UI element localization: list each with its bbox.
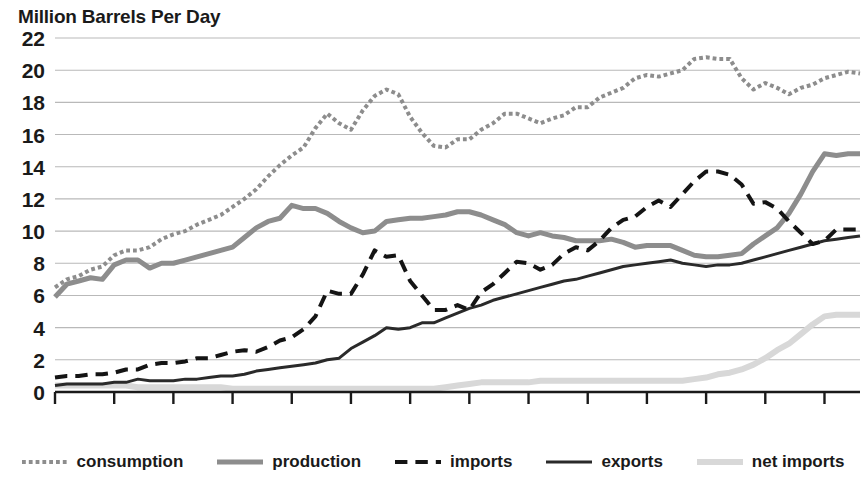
y-tick-label: 2 bbox=[33, 349, 45, 372]
x-axis bbox=[55, 392, 860, 404]
y-tick-label: 16 bbox=[22, 124, 45, 147]
y-axis-tick-labels: 0246810121416182022 bbox=[22, 30, 46, 404]
chart-root: Million Barrels Per Day 0246810121416182… bbox=[0, 0, 866, 489]
legend-item-net-imports[interactable]: net imports bbox=[697, 452, 845, 472]
legend-label: production bbox=[272, 452, 361, 472]
y-tick-label: 18 bbox=[22, 91, 46, 114]
chart-svg: 0246810121416182022 19501955196019651970… bbox=[0, 30, 866, 405]
chart-legend: consumptionproductionimportsexportsnet i… bbox=[0, 440, 866, 484]
y-tick-label: 8 bbox=[33, 252, 45, 275]
y-tick-label: 12 bbox=[22, 188, 45, 211]
legend-item-imports[interactable]: imports bbox=[395, 452, 512, 472]
legend-item-production[interactable]: production bbox=[217, 452, 361, 472]
solid-dark-line-swatch bbox=[546, 456, 592, 468]
legend-item-consumption[interactable]: consumption bbox=[22, 452, 184, 472]
data-series-layer bbox=[55, 57, 860, 388]
legend-label: consumption bbox=[77, 452, 184, 472]
dashed-line-swatch bbox=[395, 456, 441, 468]
y-tick-label: 10 bbox=[22, 220, 45, 243]
y-tick-label: 6 bbox=[33, 284, 45, 307]
chart-title: Million Barrels Per Day bbox=[18, 6, 220, 28]
legend-item-exports[interactable]: exports bbox=[546, 452, 662, 472]
dotted-line-swatch bbox=[22, 456, 68, 468]
legend-label: imports bbox=[450, 452, 512, 472]
series-line-production bbox=[55, 154, 860, 297]
solid-gray-line-swatch bbox=[217, 456, 263, 468]
legend-label: net imports bbox=[752, 452, 845, 472]
y-tick-label: 4 bbox=[33, 317, 45, 340]
legend-label: exports bbox=[601, 452, 662, 472]
y-tick-label: 14 bbox=[22, 156, 46, 179]
series-line-imports bbox=[55, 172, 860, 378]
y-tick-label: 0 bbox=[33, 381, 45, 404]
plot-area: 0246810121416182022 19501955196019651970… bbox=[0, 30, 866, 405]
solid-light-line-swatch bbox=[697, 456, 743, 468]
y-tick-label: 22 bbox=[22, 30, 45, 50]
y-tick-label: 20 bbox=[22, 59, 45, 82]
series-line-net-imports bbox=[55, 315, 860, 389]
